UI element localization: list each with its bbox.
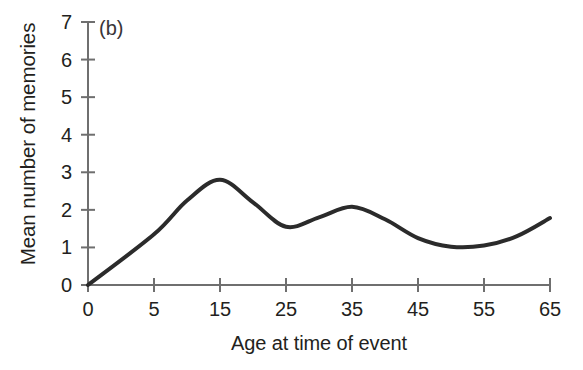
x-tick-label: 55	[473, 298, 495, 320]
memory-curve-line	[88, 180, 550, 285]
x-tick-label: 25	[275, 298, 297, 320]
y-tick-label: 6	[61, 49, 72, 71]
x-tick-label: 0	[82, 298, 93, 320]
x-tick-label: 35	[341, 298, 363, 320]
x-tick-label: 5	[148, 298, 159, 320]
y-axis-ticks: 01234567	[61, 11, 95, 296]
x-tick-label: 15	[209, 298, 231, 320]
x-tick-label: 65	[539, 298, 561, 320]
x-tick-label: 45	[407, 298, 429, 320]
y-tick-label: 7	[61, 11, 72, 33]
y-tick-label: 0	[61, 274, 72, 296]
x-axis-title: Age at time of event	[88, 332, 550, 355]
y-tick-label: 4	[61, 124, 72, 146]
y-tick-label: 1	[61, 236, 72, 258]
line-chart-plot: 01234567 05152535455565	[0, 0, 583, 370]
y-tick-label: 2	[61, 199, 72, 221]
y-tick-label: 3	[61, 161, 72, 183]
data-series-group	[88, 180, 550, 285]
y-tick-label: 5	[61, 86, 72, 108]
figure-panel-b: Mean number of memories (b) 01234567 051…	[0, 0, 583, 370]
